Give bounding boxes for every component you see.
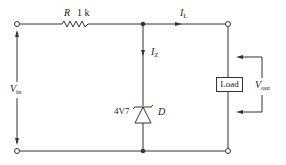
resistor-symbol [62,21,88,27]
vin-arrowhead-down [15,138,19,145]
resistor-name: R [64,7,70,18]
zener-rating-label: 4V7 [114,107,130,116]
input-voltage-subscript: in [16,88,21,96]
terminal-out-bottom [226,149,231,154]
terminal-in-top [15,22,20,27]
junction-top [141,22,146,27]
zener-current-label: IZ [151,47,159,59]
vout-arrowhead-top [236,55,243,59]
vout-arrowhead-bottom [236,110,243,114]
resistor-label: R 1 k [64,8,90,18]
zener-current-subscript: Z [154,51,158,59]
zener-triangle [135,107,151,123]
output-voltage-subscript: out [261,84,270,92]
load-current-subscript: L [183,12,187,20]
vin-arrowhead-up [15,30,19,37]
vout-arrow-top-line [240,57,262,78]
terminal-out-top [226,22,231,27]
circuit-diagram: R 1 k IL IZ 4V7 D Load Vin Vout [0,0,286,165]
circuit-wiring [0,0,286,165]
zener-name-label: D [158,107,165,117]
input-voltage-label: Vin [10,84,22,96]
vout-arrow-bottom-line [240,95,262,112]
resistor-value: 1 k [77,7,90,18]
iz-arrowhead [141,50,145,56]
output-voltage-label: Vout [255,80,270,92]
load-current-label: IL [180,8,188,20]
load-box: Load [216,77,243,92]
junction-bottom [141,149,146,154]
il-arrowhead [175,22,182,26]
terminal-in-bottom [15,149,20,154]
